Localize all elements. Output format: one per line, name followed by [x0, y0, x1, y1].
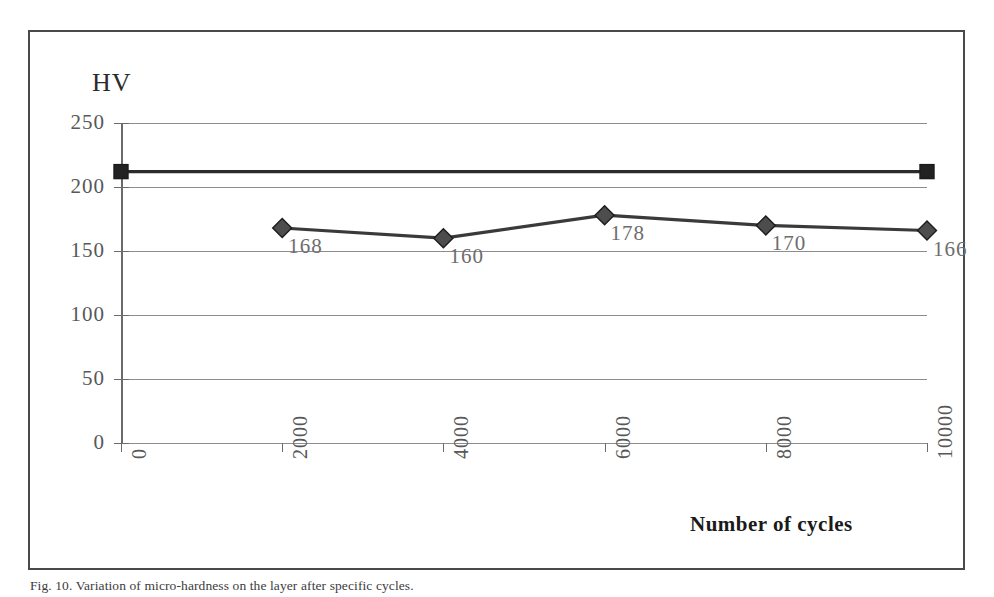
x-tick-0 [121, 443, 122, 452]
figure-frame: HV 250 200 150 100 50 0 [28, 30, 965, 570]
x-tick-10000 [927, 443, 928, 452]
data-point-marker [920, 165, 934, 179]
x-tick-4000 [443, 443, 444, 452]
plot-area: 250 200 150 100 50 0 0 2000 4000 6000 80… [121, 123, 927, 443]
figure-caption: Fig. 10. Variation of micro-hardness on … [30, 578, 970, 594]
chart-canvas: HV 250 200 150 100 50 0 [30, 32, 967, 572]
x-tick-8000 [766, 443, 767, 452]
y-tick-label-200: 200 [29, 174, 105, 199]
x-tick-2000 [282, 443, 283, 452]
y-axis-title: HV [92, 68, 132, 98]
y-tick-label-150: 150 [29, 238, 105, 263]
x-tick-6000 [605, 443, 606, 452]
data-series-layer [121, 123, 927, 443]
data-point-label: 160 [449, 244, 484, 269]
data-point-label: 166 [933, 237, 968, 262]
gridline-0 [121, 443, 927, 444]
x-axis-title: Number of cycles [690, 512, 853, 537]
data-point-marker [114, 165, 128, 179]
x-tick-label-0: 0 [128, 448, 151, 459]
y-tick-label-100: 100 [29, 302, 105, 327]
y-tick-label-250: 250 [29, 110, 105, 135]
x-tick-label-10000: 10000 [934, 404, 957, 459]
data-point-label: 170 [772, 231, 807, 256]
data-point-label: 178 [611, 221, 646, 246]
y-tick-label-0: 0 [29, 430, 105, 455]
y-tick-label-50: 50 [29, 366, 105, 391]
data-point-label: 168 [288, 234, 323, 259]
